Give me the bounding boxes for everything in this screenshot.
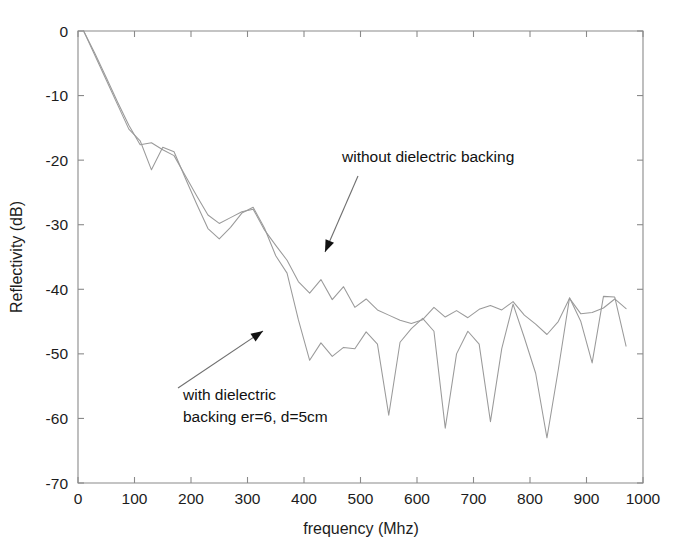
x-tick-label-600: 600 bbox=[404, 490, 430, 507]
x-tick-label-300: 300 bbox=[235, 490, 261, 507]
x-axis-title: frequency (Mhz) bbox=[303, 520, 419, 537]
x-tick-label-900: 900 bbox=[574, 490, 600, 507]
x-tick-label-1000: 1000 bbox=[626, 490, 661, 507]
y-tick-label--60: -60 bbox=[46, 410, 69, 427]
x-tick-label-800: 800 bbox=[517, 490, 543, 507]
annotation-label: without dielectric backing bbox=[341, 148, 514, 165]
reflectivity-chart-figure: 01002003004005006007008009001000 0-10-20… bbox=[0, 0, 680, 558]
y-tick-label--10: -10 bbox=[46, 87, 69, 104]
chart-background bbox=[0, 0, 680, 558]
x-tick-label-100: 100 bbox=[122, 490, 148, 507]
y-tick-label-0: 0 bbox=[59, 23, 68, 40]
y-tick-label--70: -70 bbox=[46, 475, 69, 492]
x-tick-label-200: 200 bbox=[178, 490, 204, 507]
annotation-label-line2: backing er=6, d=5cm bbox=[183, 408, 328, 425]
x-tick-label-700: 700 bbox=[461, 490, 487, 507]
y-tick-label--30: -30 bbox=[46, 216, 69, 233]
x-tick-label-0: 0 bbox=[74, 490, 83, 507]
x-tick-label-500: 500 bbox=[348, 490, 374, 507]
y-tick-label--20: -20 bbox=[46, 152, 69, 169]
y-tick-label--40: -40 bbox=[46, 281, 69, 298]
chart-svg: 01002003004005006007008009001000 0-10-20… bbox=[0, 0, 680, 558]
x-tick-label-400: 400 bbox=[291, 490, 317, 507]
annotation-label-line1: with dielectric bbox=[182, 386, 276, 403]
y-tick-label--50: -50 bbox=[46, 345, 69, 362]
y-axis-title: Reflectivity (dB) bbox=[8, 201, 25, 313]
